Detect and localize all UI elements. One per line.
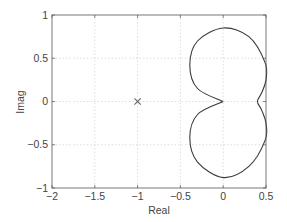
- nyquist-curve-path: [190, 28, 267, 178]
- x-tick-label: −1: [132, 190, 144, 202]
- x-tick-label: 0.5: [259, 190, 274, 202]
- x-tick-label: −1.5: [84, 190, 105, 202]
- nyquist-chart: −2−1.5−1−0.500.5 10.50−0.5−1 Real Imag: [0, 0, 287, 222]
- y-tick-label: 0: [42, 95, 48, 107]
- y-tick-label: −1: [36, 182, 48, 194]
- y-axis-ticks: 10.50−0.5−1: [27, 9, 266, 194]
- y-tick-label: 1: [42, 9, 48, 21]
- y-tick-label: 0.5: [33, 52, 48, 64]
- x-tick-label: 0: [220, 190, 226, 202]
- nyquist-curve: [190, 28, 267, 178]
- x-axis-label: Real: [148, 204, 170, 216]
- y-axis-label: Imag: [14, 90, 26, 114]
- grid-lines: [52, 15, 266, 188]
- x-tick-label: −0.5: [170, 190, 191, 202]
- y-tick-label: −0.5: [27, 138, 48, 150]
